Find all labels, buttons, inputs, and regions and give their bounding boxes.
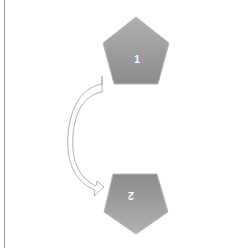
shape-label-2: 2 [121,190,141,202]
pentagon-shape-1 [103,17,169,84]
pentagon-shape-2 [104,174,168,234]
curved-arrow-connector [68,76,104,196]
diagram-canvas [0,0,242,248]
shape-label-1: 1 [127,53,147,65]
